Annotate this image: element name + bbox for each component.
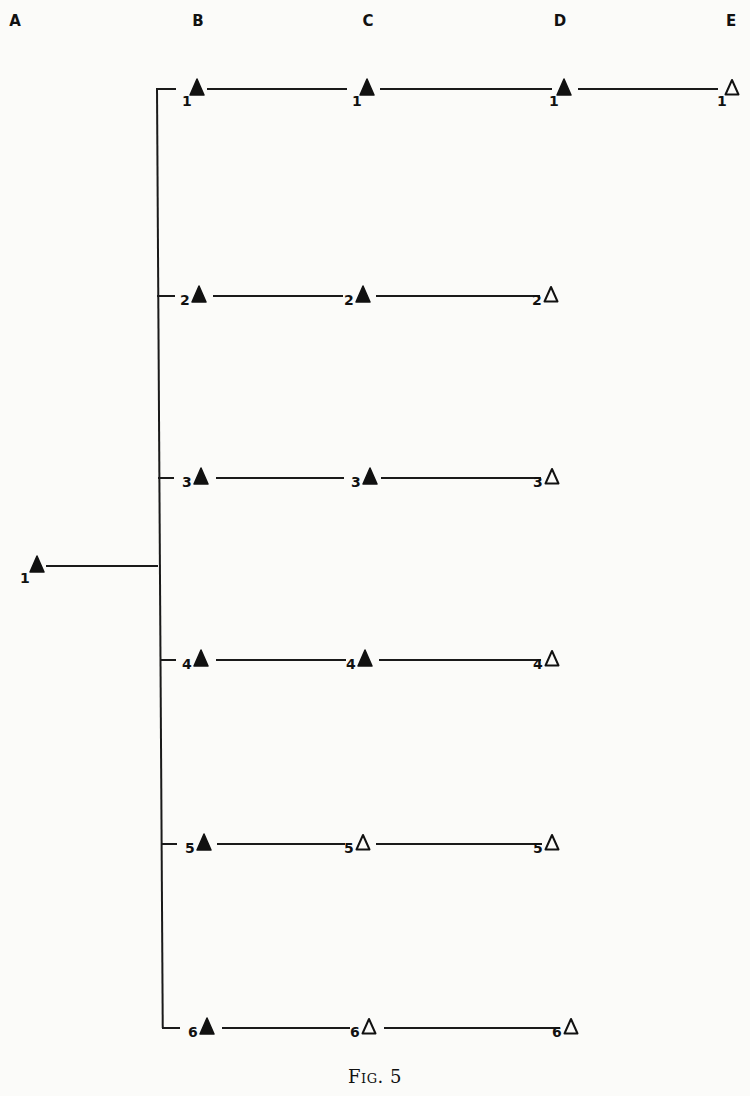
trunk-line	[156, 88, 164, 1028]
node-label: 6	[552, 1025, 562, 1039]
edge-6-cd	[384, 1027, 560, 1029]
edge-3-bc	[216, 477, 344, 479]
edge-4-bc	[216, 659, 346, 661]
filled-triangle-icon	[199, 1017, 215, 1035]
edge-6-bc	[222, 1027, 350, 1029]
node-label: 2	[180, 293, 190, 307]
figure-caption: Fig. 5	[0, 1066, 750, 1087]
root-connector-line	[46, 565, 158, 567]
open-triangle-icon	[563, 1017, 579, 1035]
branch-stub-5	[161, 843, 177, 845]
edge-1-bc	[207, 88, 347, 90]
figure-caption-text: Fig. 5	[348, 1066, 402, 1087]
node-label: 1	[182, 94, 192, 108]
node-label: 1	[20, 571, 30, 585]
filled-triangle-icon	[355, 285, 371, 303]
edge-1-cd	[380, 88, 552, 90]
edge-2-cd	[376, 295, 540, 297]
edge-4-cd	[379, 659, 541, 661]
node-label: 4	[533, 657, 543, 671]
edge-2-bc	[213, 295, 343, 297]
node-label: 3	[182, 475, 192, 489]
open-triangle-icon	[355, 833, 371, 851]
node-label: 5	[344, 841, 354, 855]
filled-triangle-icon	[357, 649, 373, 667]
node-label: 4	[182, 657, 192, 671]
column-label-e: E	[726, 12, 736, 30]
branch-stub-6	[162, 1027, 180, 1029]
open-triangle-icon	[361, 1017, 377, 1035]
node-label: 6	[188, 1025, 198, 1039]
open-triangle-icon	[544, 649, 560, 667]
filled-triangle-icon	[193, 467, 209, 485]
filled-triangle-icon	[193, 649, 209, 667]
filled-triangle-icon	[191, 285, 207, 303]
edge-5-bc	[217, 843, 345, 845]
node-label: 5	[533, 841, 543, 855]
node-label: 1	[549, 94, 559, 108]
open-triangle-icon	[544, 467, 560, 485]
filled-triangle-icon	[362, 467, 378, 485]
node-label: 5	[185, 841, 195, 855]
column-label-a: A	[9, 12, 21, 30]
filled-triangle-icon	[196, 833, 212, 851]
edge-1-de	[578, 88, 718, 90]
node-label: 3	[351, 475, 361, 489]
branch-stub-3	[158, 477, 174, 479]
column-label-c: C	[362, 12, 373, 30]
node-label: 4	[346, 657, 356, 671]
branch-stub-2	[157, 295, 175, 297]
open-triangle-icon	[543, 285, 559, 303]
open-triangle-icon	[544, 833, 560, 851]
branch-stub-1	[156, 88, 176, 90]
column-label-d: D	[554, 12, 566, 30]
node-label: 3	[533, 475, 543, 489]
node-label: 2	[344, 293, 354, 307]
node-label: 2	[532, 293, 542, 307]
filled-triangle-icon	[29, 555, 45, 573]
node-label: 6	[350, 1025, 360, 1039]
node-label: 1	[352, 94, 362, 108]
node-label: 1	[717, 94, 727, 108]
branch-stub-4	[160, 659, 176, 661]
edge-5-cd	[376, 843, 542, 845]
column-label-b: B	[192, 12, 203, 30]
edge-3-cd	[381, 477, 541, 479]
